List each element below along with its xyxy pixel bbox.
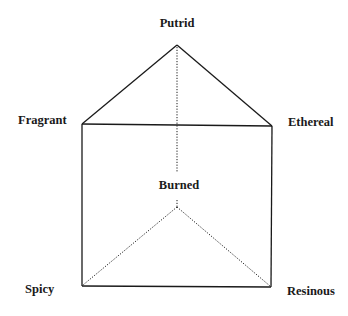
edge-ethereal-resinous — [271, 126, 272, 287]
edge-spicy-resinous — [82, 286, 271, 287]
label-burned: Burned — [159, 179, 199, 192]
label-fragrant: Fragrant — [18, 114, 67, 127]
odor-prism-diagram — [0, 0, 348, 316]
label-ethereal: Ethereal — [288, 116, 334, 129]
edge-putrid-fragrant — [82, 45, 177, 124]
edge-burned-spicy — [83, 207, 177, 285]
label-spicy: Spicy — [25, 283, 54, 296]
label-resinous: Resinous — [287, 285, 335, 298]
edge-putrid-ethereal — [177, 45, 272, 126]
label-putrid: Putrid — [160, 17, 195, 30]
edge-burned-resinous — [177, 207, 270, 286]
